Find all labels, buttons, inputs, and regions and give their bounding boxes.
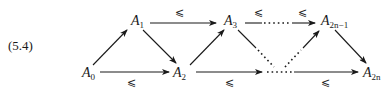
arrow-a2n-1-a2n — [335, 30, 366, 63]
node-a2: A2 — [173, 66, 186, 82]
commutative-diagram: (5.4) A0 A1 A2 A3 A2n−1 A2n ⩽ ⩽ ⩽ ⩽ ⩽ ⩽ — [0, 0, 387, 90]
relation-label-a2-left: ⩽ — [225, 77, 234, 88]
relation-label-a0-a2: ⩽ — [127, 77, 136, 88]
relation-label-a3-left: ⩽ — [254, 7, 263, 18]
relation-label-a3-right: ⩽ — [298, 7, 307, 18]
arrow-a0-a1 — [93, 30, 127, 65]
arrow-a1-a2 — [143, 30, 176, 63]
node-a1: A1 — [131, 14, 144, 30]
arrow-up-to-a2n-1 — [285, 31, 319, 67]
relation-label-a2-right: ⩽ — [321, 77, 330, 88]
node-a2n-1: A2n−1 — [321, 14, 348, 30]
node-a0: A0 — [82, 66, 95, 82]
node-a2n: A2n — [363, 66, 381, 82]
node-a3: A3 — [224, 14, 237, 30]
arrow-a2-a3 — [190, 30, 224, 65]
relation-label-a1-a3: ⩽ — [175, 7, 184, 18]
line-a3-down — [238, 30, 274, 67]
equation-number: (5.4) — [8, 38, 33, 54]
